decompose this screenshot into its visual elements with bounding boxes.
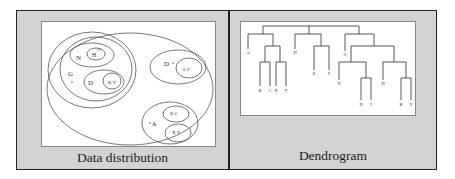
data-distribution-panel: G N H I I D K Y D E F A B C X Y Data dis… bbox=[17, 11, 228, 169]
leaf-a: A bbox=[246, 50, 250, 55]
label-hi: I I bbox=[97, 47, 101, 52]
label-g: G bbox=[68, 70, 73, 78]
cluster-d2-ellipse bbox=[150, 50, 206, 84]
figure-frame: G N H I I D K Y D E F A B C X Y Data dis… bbox=[16, 10, 437, 170]
label-a: A bbox=[152, 121, 157, 127]
leaf-f: F bbox=[328, 71, 331, 76]
leaf-h: H bbox=[359, 102, 363, 107]
leaf-d: D bbox=[293, 50, 297, 55]
leaf-x: X bbox=[274, 88, 278, 93]
label-h: H bbox=[92, 52, 97, 58]
dendrogram-panel: A B C X Y D E F G N H I D K Y Dendr bbox=[230, 11, 436, 169]
leaf-g: G bbox=[343, 52, 347, 57]
label-ky: K Y bbox=[108, 80, 117, 85]
dendrogram-canvas: A B C X Y D E F G N H I D K Y bbox=[240, 21, 416, 116]
leaf-b: B bbox=[258, 88, 261, 93]
data-distribution-canvas: G N H I I D K Y D E F A B C X Y bbox=[41, 21, 216, 147]
label-d1: D bbox=[88, 79, 93, 87]
leaf-y: Y bbox=[284, 88, 288, 93]
cluster-g-inner-ellipse bbox=[60, 37, 132, 101]
label-xy: X Y bbox=[172, 130, 181, 135]
label-n: N bbox=[76, 54, 81, 62]
leaf-e: E bbox=[313, 71, 316, 76]
label-ef: E F bbox=[183, 67, 190, 72]
label-d2: D bbox=[164, 60, 169, 68]
label-bc: B C bbox=[170, 111, 179, 116]
leaf-n: N bbox=[337, 81, 341, 86]
data-distribution-caption: Data distribution bbox=[17, 150, 228, 166]
leaf-i: I bbox=[370, 102, 372, 107]
dendrogram-tree: A B C X Y D E F G N H I D K Y bbox=[241, 22, 417, 117]
leaf-d2: D bbox=[381, 81, 385, 86]
leaf-c: C bbox=[268, 88, 271, 93]
leaf-y2: Y bbox=[409, 102, 413, 107]
dendrogram-caption: Dendrogram bbox=[230, 148, 436, 164]
venn-diagram: G N H I I D K Y D E F A B C X Y bbox=[42, 22, 217, 148]
leaf-k: K bbox=[399, 102, 403, 107]
